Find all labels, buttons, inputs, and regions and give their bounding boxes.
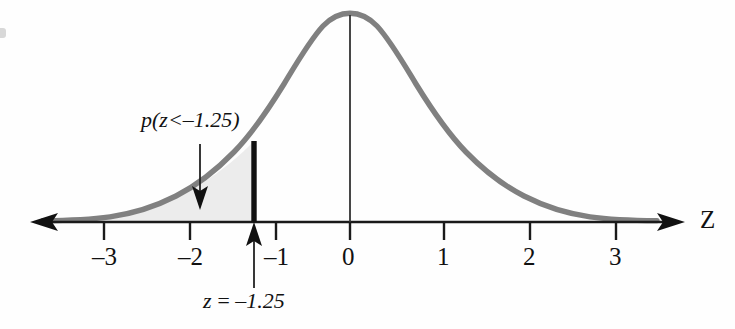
zvalue-annotation-label: z = –1.25 xyxy=(203,288,285,314)
tick-label-pos2: 2 xyxy=(523,243,536,271)
tick-label-neg1: –1 xyxy=(264,243,289,271)
figure-container: –3 –2 –1 0 1 2 3 Z p(z<–1.25) z = –1.25 xyxy=(0,0,735,329)
tick-label-neg3: –3 xyxy=(92,243,117,271)
probability-annotation-label: p(z<–1.25) xyxy=(141,107,240,133)
zvalue-annotation-arrow xyxy=(246,222,262,288)
tick-label-pos1: 1 xyxy=(437,243,450,271)
x-axis-ticks xyxy=(104,222,616,240)
tick-label-pos3: 3 xyxy=(609,243,622,271)
tick-label-zero: 0 xyxy=(342,243,355,271)
tick-label-neg2: –2 xyxy=(178,243,203,271)
normal-distribution-chart xyxy=(0,0,735,329)
x-axis-label: Z xyxy=(700,206,715,234)
